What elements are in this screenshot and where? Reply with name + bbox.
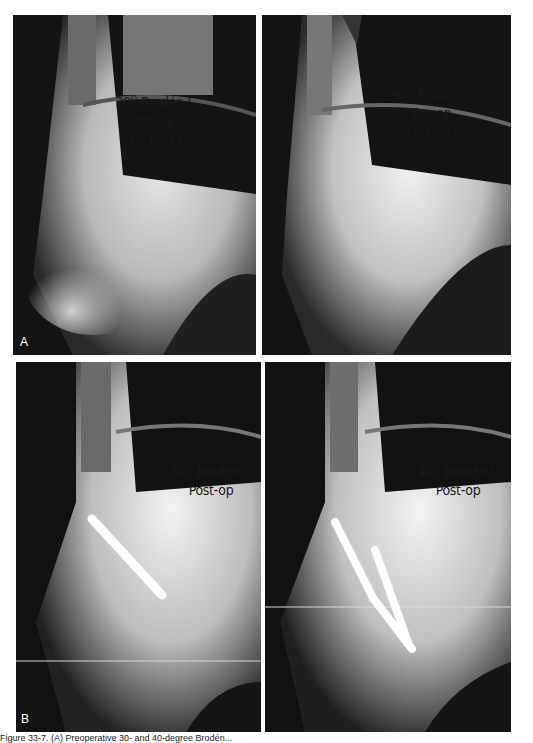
panel-letter-b: B: [21, 712, 29, 726]
xray-panel-a-left: 30O Brodén I. Pre-op 12-12-77 A: [13, 15, 256, 355]
panel-letter-a: A: [20, 335, 28, 349]
xray-image: [16, 362, 261, 732]
xray-image: [262, 15, 511, 355]
xray-image: [13, 15, 256, 355]
xray-panel-a-right: 40O Brodén I. Pre-op 12-12-77: [262, 15, 511, 355]
figure-caption: Figure 33-7. (A) Preoperative 30- and 40…: [0, 733, 533, 743]
xray-panel-b-left: 30O Brodén I. Post-op B: [16, 362, 261, 732]
image-annotation: 40O Brodén I. Post-op: [403, 462, 511, 500]
image-annotation: 40O Brodén I. Pre-op 12-12-77: [382, 85, 482, 142]
image-annotation: 30O Brodén I. Post-op: [156, 462, 261, 500]
xray-panel-b-right: 40O Brodén I. Post-op: [265, 362, 511, 732]
image-annotation: 30O Brodén I. Pre-op 12-12-77: [105, 93, 205, 150]
xray-image: [265, 362, 511, 732]
